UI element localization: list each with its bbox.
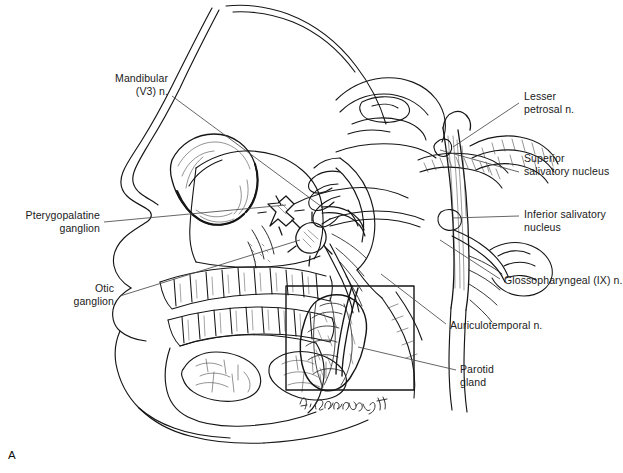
anatomical-illustration [0, 0, 623, 473]
label-otic-ganglion: Otic ganglion [56, 282, 114, 308]
label-superior-salivatory-nucleus: Superior salivatory nucleus [524, 152, 623, 178]
label-glossopharyngeal-nerve: Glossopharyngeal (IX) n. [504, 274, 623, 287]
canvas-background [0, 0, 623, 473]
label-lesser-petrosal-nerve: Lesser petrosal n. [524, 90, 619, 116]
label-auriculotemporal-nerve: Auriculotemporal n. [450, 319, 560, 332]
label-parotid-gland: Parotid gland [460, 363, 520, 389]
panel-letter: A [8, 449, 16, 461]
label-mandibular-nerve: Mandibular (V3) n. [68, 72, 168, 98]
label-pterygopalatine-ganglion: Pterygopalatine ganglion [6, 209, 100, 235]
label-inferior-salivatory-nucleus: Inferior salivatory nucleus [524, 208, 623, 234]
